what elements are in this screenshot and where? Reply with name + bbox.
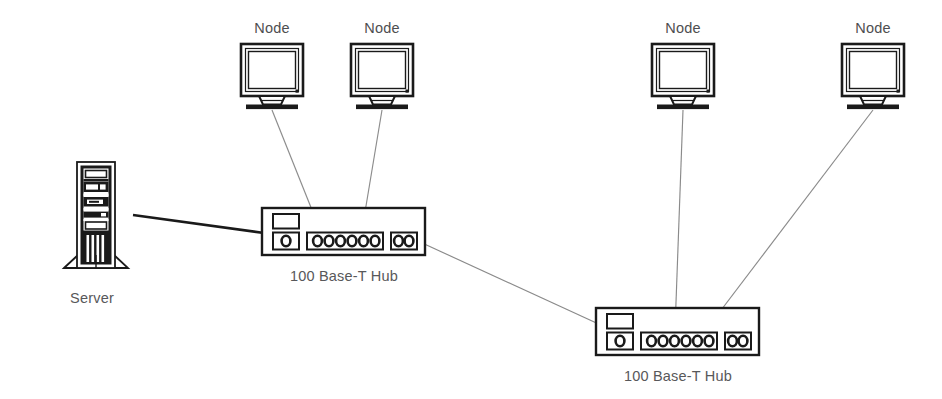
connection-lines (133, 110, 873, 332)
network-diagram-canvas: Server 100 Base-T Hub 100 Base-T Hub Nod… (0, 0, 942, 399)
server-label: Server (70, 290, 114, 306)
hub-1-label: 100 Base-T Hub (290, 268, 398, 284)
node-3-label: Node (665, 20, 700, 36)
node-2-device[interactable]: Node (351, 20, 413, 109)
node-4-label: Node (855, 20, 890, 36)
node-1-device[interactable]: Node (241, 20, 303, 109)
link-hub1-to-hub2 (420, 242, 616, 332)
server-device[interactable]: Server (64, 162, 128, 306)
link-node4-to-hub2 (706, 110, 873, 330)
hub-1-device[interactable]: 100 Base-T Hub (262, 208, 425, 284)
node-2-label: Node (364, 20, 399, 36)
link-node3-to-hub2 (675, 110, 683, 330)
hub-2-device[interactable]: 100 Base-T Hub (596, 308, 759, 384)
network-diagram: Server 100 Base-T Hub 100 Base-T Hub Nod… (0, 0, 942, 399)
hub-2-label: 100 Base-T Hub (624, 368, 732, 384)
node-3-device[interactable]: Node (652, 20, 714, 109)
node-4-device[interactable]: Node (842, 20, 904, 109)
link-server-to-hub1 (133, 215, 264, 233)
node-1-label: Node (254, 20, 289, 36)
